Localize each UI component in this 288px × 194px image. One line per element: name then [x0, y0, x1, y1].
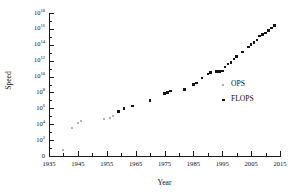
data-point-flops — [270, 27, 273, 30]
y-axis-tick-label: 0 — [42, 153, 45, 160]
data-point-flops — [224, 66, 227, 69]
x-axis-tick-label: 1975 — [151, 160, 179, 167]
data-point-flops — [230, 61, 233, 64]
legend-item-ops: OPS — [222, 78, 284, 93]
data-point-flops — [256, 39, 259, 42]
data-point-flops — [149, 99, 152, 102]
x-axis-tick-label: 1945 — [64, 160, 92, 167]
data-point-flops — [235, 55, 238, 58]
data-point-flops — [241, 51, 244, 54]
legend-label-flops: FLOPS — [231, 94, 254, 104]
data-point-flops — [247, 46, 250, 49]
data-point-flops — [267, 29, 270, 32]
data-point-ops — [112, 115, 114, 117]
data-point-flops — [221, 70, 224, 73]
chart-legend: OPSFLOPS — [222, 78, 284, 108]
x-axis-tick-label: 2005 — [237, 160, 265, 167]
data-point-flops — [169, 90, 172, 93]
data-point-ops — [62, 149, 64, 151]
x-axis-tick-label: 1955 — [93, 160, 121, 167]
x-axis-tick-label: 1995 — [208, 160, 236, 167]
data-point-flops — [201, 77, 204, 80]
legend-label-ops: OPS — [231, 79, 245, 89]
x-axis-tick-label: 1985 — [179, 160, 207, 167]
y-axis-tick-label: 1014 — [34, 41, 45, 48]
data-point-ops — [103, 118, 105, 120]
data-point-ops — [80, 120, 82, 122]
data-point-flops — [250, 43, 253, 46]
y-axis-title: Speed — [4, 53, 13, 109]
y-axis-tick-label: 108 — [36, 89, 45, 96]
data-point-flops — [195, 82, 198, 85]
y-axis-tick-label: 102 — [36, 137, 45, 144]
y-axis-tick-label: 104 — [36, 121, 45, 128]
data-point-flops — [273, 24, 276, 27]
data-point-flops — [209, 71, 212, 74]
data-point-flops — [183, 88, 186, 91]
data-point-flops — [233, 58, 236, 61]
x-axis-tick-label: 1935 — [35, 160, 63, 167]
data-point-flops — [123, 107, 126, 110]
x-axis-tick-major — [280, 151, 281, 157]
y-axis-tick-label: 106 — [36, 105, 45, 112]
x-axis-tick-label: 1965 — [122, 160, 150, 167]
data-point-flops — [131, 105, 134, 108]
y-axis-tick-label: 1012 — [34, 57, 45, 64]
x-axis-title: Year — [49, 178, 280, 187]
legend-marker-flops — [222, 99, 225, 102]
data-point-flops — [253, 41, 256, 44]
data-point-flops — [117, 110, 120, 113]
data-point-ops — [109, 117, 111, 119]
x-axis-tick-label: 2015 — [266, 160, 288, 167]
speed-vs-year-scatter-chart: 010210410610810101012101410161018 193519… — [0, 0, 288, 194]
legend-item-flops: FLOPS — [222, 93, 284, 108]
y-axis-tick-label: 1010 — [34, 73, 45, 80]
y-axis-tick-label: 1018 — [34, 10, 45, 17]
legend-marker-ops — [222, 84, 224, 86]
data-point-flops — [264, 32, 267, 35]
data-point-ops — [77, 122, 79, 124]
data-point-ops — [71, 127, 73, 129]
y-axis-tick-label: 1016 — [34, 25, 45, 32]
